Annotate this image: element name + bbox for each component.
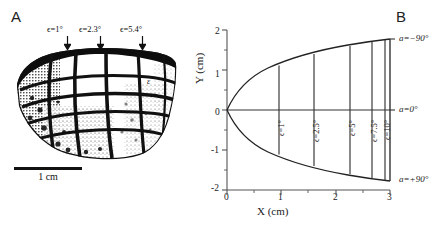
panel-a: A ϵ=1° ϵ=2.3° ϵ=5.4° [0,0,195,229]
isoline-label-eps-7p5: ϵ=7.5° [369,120,379,142]
panel-b: B Y (cm) X (cm) 2 1 0 -1 -2 0 1 2 3 [195,0,445,229]
compound-eye-photograph: ε [14,44,179,162]
a-label-ticks [390,39,395,110]
isoline-label-eps-5: ϵ=5° [347,120,357,136]
isoline-label-eps-1: ϵ=1° [276,120,286,136]
y-axis-ticks [222,30,227,190]
a-label-zero: a=0° [399,104,418,114]
panel-a-eccentricity-label-1: ϵ=1° [47,24,63,34]
isoline-label-eps-2p5: ϵ=2.5° [311,120,321,142]
scale-bar-label: 1 cm [14,171,82,182]
panel-a-letter: A [11,8,21,25]
series-upper-boundary [227,39,390,110]
scale-bar: 1 cm [14,167,86,182]
x-axis-ticks [227,190,390,195]
isoline-label-eps-10: ϵ=10° [382,120,392,140]
figure-root: A ϵ=1° ϵ=2.3° ϵ=5.4° [0,0,445,229]
a-label-minus-90: a=−90° [399,33,428,43]
scale-bar-line [14,167,82,170]
a-label-plus-90: a=+90° [399,174,428,184]
series-lower-boundary [227,110,390,181]
panel-a-eccentricity-label-3: ϵ=5.4° [120,24,142,34]
panel-a-eccentricity-label-2: ϵ=2.3° [79,24,101,34]
